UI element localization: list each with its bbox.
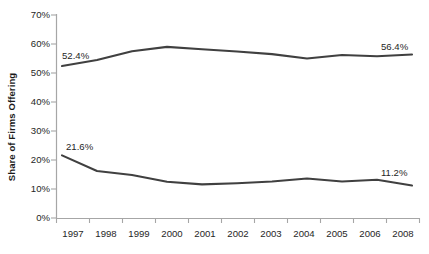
y-tick-70: 70%	[22, 9, 50, 20]
lower-start-label: 21.6%	[66, 141, 93, 152]
y-tick-60: 60%	[22, 38, 50, 49]
y-tick-0: 0%	[22, 212, 50, 223]
y-axis-title: Share of Firms Offering	[0, 0, 22, 254]
upper-series-line	[62, 47, 412, 66]
x-tick-1997: 1997	[56, 228, 90, 239]
x-tick-2004: 2004	[287, 228, 321, 239]
y-tick-30: 30%	[22, 125, 50, 136]
upper-end-label: 56.4%	[381, 41, 408, 52]
line-chart: Share of Firms Offering 70% 60% 50% 40% …	[0, 0, 429, 254]
x-tick-1999: 1999	[122, 228, 156, 239]
x-tick-2003: 2003	[254, 228, 288, 239]
lower-series-line	[62, 155, 412, 185]
y-tick-10: 10%	[22, 183, 50, 194]
x-tick-1998: 1998	[89, 228, 123, 239]
x-tick-2001: 2001	[188, 228, 222, 239]
lower-end-label: 11.2%	[381, 167, 408, 178]
upper-start-label: 52.4%	[62, 50, 89, 61]
y-tick-50: 50%	[22, 67, 50, 78]
x-tick-2006: 2006	[353, 228, 387, 239]
y-tick-40: 40%	[22, 96, 50, 107]
x-tick-2000: 2000	[155, 228, 189, 239]
y-axis-ticks	[51, 15, 56, 218]
plot-area	[0, 0, 429, 254]
y-tick-20: 20%	[22, 154, 50, 165]
x-tick-2008: 2008	[386, 228, 420, 239]
x-tick-2002: 2002	[221, 228, 255, 239]
x-tick-2005: 2005	[320, 228, 354, 239]
